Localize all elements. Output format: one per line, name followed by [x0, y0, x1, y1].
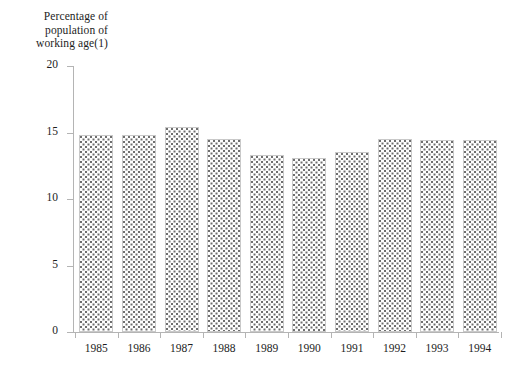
x-tick-0: [75, 332, 76, 338]
chart-title-line-2: population of: [4, 24, 108, 38]
bar-1991: [335, 152, 369, 332]
y-tick-label-15: 15: [47, 125, 59, 137]
x-label-1994: 1994: [458, 342, 501, 354]
bar-1993: [420, 140, 454, 332]
y-tick-5: 5: [67, 266, 73, 267]
chart-title: Percentage of population of working age(…: [4, 10, 108, 51]
x-label-1986: 1986: [118, 342, 161, 354]
x-label-1987: 1987: [160, 342, 203, 354]
x-label-1992: 1992: [373, 342, 416, 354]
x-label-1991: 1991: [331, 342, 374, 354]
x-label-1988: 1988: [203, 342, 246, 354]
x-label-1989: 1989: [245, 342, 288, 354]
x-tick-2: [160, 332, 161, 338]
bar-1985: [79, 135, 113, 332]
x-label-1993: 1993: [416, 342, 459, 354]
y-tick-label-0: 0: [52, 324, 58, 336]
chart-title-line-3: working age(1): [4, 37, 108, 51]
y-tick-label-5: 5: [52, 258, 58, 270]
x-axis-line: [73, 332, 499, 333]
y-axis-line: [73, 66, 74, 333]
bar-1994: [463, 140, 497, 332]
y-tick-10: 10: [67, 199, 73, 200]
x-tick-5: [288, 332, 289, 338]
x-label-1990: 1990: [288, 342, 331, 354]
plot-area: 05101520 1985198619871988198919901991199…: [73, 60, 500, 335]
bar-1986: [122, 135, 156, 332]
x-tick-6: [331, 332, 332, 338]
bar-1987: [165, 127, 199, 332]
bar-1989: [250, 155, 284, 332]
y-tick-20: 20: [67, 66, 73, 67]
x-label-1985: 1985: [75, 342, 118, 354]
bar-chart: Percentage of population of working age(…: [0, 0, 513, 373]
x-tick-4: [245, 332, 246, 338]
x-tick-8: [416, 332, 417, 338]
bar-1992: [378, 139, 412, 332]
y-tick-label-10: 10: [47, 191, 59, 203]
x-tick-3: [203, 332, 204, 338]
y-tick-15: 15: [67, 133, 73, 134]
bar-1990: [292, 158, 326, 332]
y-tick-label-20: 20: [47, 58, 59, 70]
chart-title-line-1: Percentage of: [4, 10, 108, 24]
x-tick-10: [501, 332, 502, 338]
bar-1988: [207, 139, 241, 332]
y-tick-0: 0: [67, 332, 73, 333]
x-tick-1: [118, 332, 119, 338]
x-tick-9: [458, 332, 459, 338]
x-tick-7: [373, 332, 374, 338]
